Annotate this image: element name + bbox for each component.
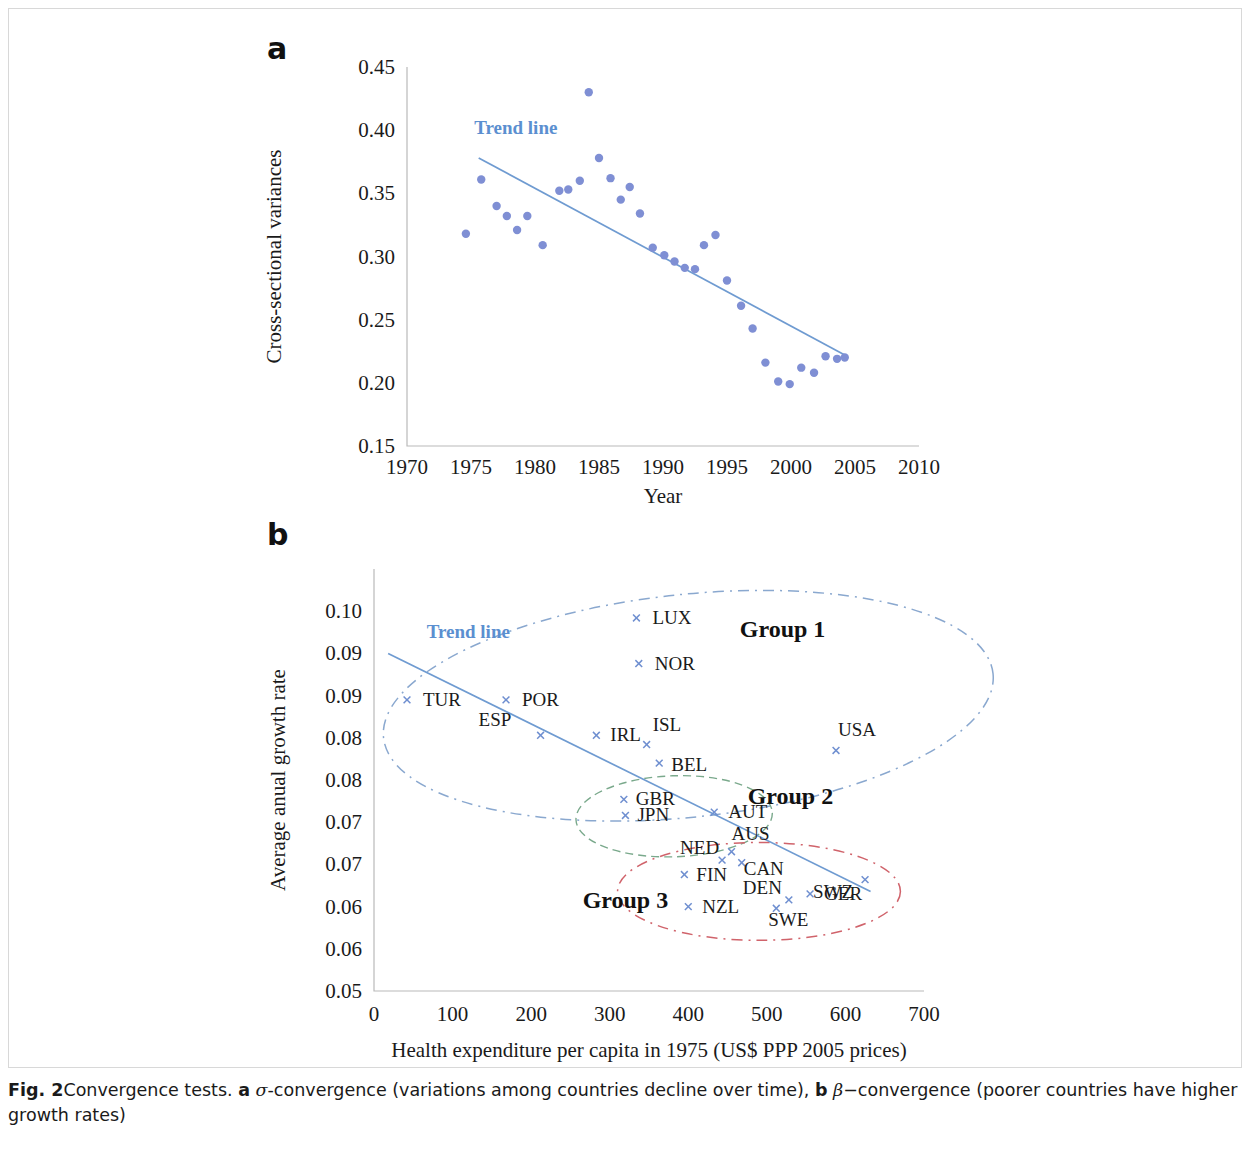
country-marker <box>620 796 627 803</box>
data-point <box>555 187 563 195</box>
panel-b-xtick-label: 200 <box>515 1002 547 1026</box>
data-point <box>503 212 511 220</box>
panel-a-trend-line-label: Trend line <box>474 117 557 138</box>
data-point <box>737 302 745 310</box>
data-point <box>538 241 546 249</box>
group-label: Group 2 <box>748 783 834 809</box>
panel-a-xtick-label: 1980 <box>514 455 556 479</box>
country-marker <box>503 696 510 703</box>
panel-a-xtick-label: 1970 <box>386 455 428 479</box>
data-point <box>477 175 485 183</box>
data-point <box>723 276 731 284</box>
country-label: NOR <box>655 653 695 674</box>
country-label: SWE <box>768 909 808 930</box>
country-label: AUS <box>732 823 770 844</box>
country-marker <box>862 876 869 883</box>
panel-b-xtick-label: 600 <box>830 1002 862 1026</box>
country-label: LUX <box>652 607 691 628</box>
country-marker <box>622 812 629 819</box>
country-label: NZL <box>702 896 739 917</box>
panel-a-chart: 0.150.200.250.300.350.400.45197019751980… <box>259 49 959 509</box>
panel-b-trend-line-label: Trend line <box>427 621 510 642</box>
data-point <box>670 257 678 265</box>
country-label: TUR <box>423 689 461 710</box>
data-point <box>810 369 818 377</box>
data-point <box>711 231 719 239</box>
group-label: Group 1 <box>740 616 826 642</box>
panel-b-ytick-label: 0.09 <box>325 641 362 665</box>
caption-beta-symbol: β <box>833 1080 843 1100</box>
country-label: NED <box>680 837 719 858</box>
country-label: BEL <box>671 754 707 775</box>
data-point <box>492 202 500 210</box>
country-label: DEN <box>743 877 782 898</box>
country-label: GER <box>824 883 862 904</box>
panel-a-ytick-label: 0.30 <box>358 245 395 269</box>
panel-b-ytick-label: 0.08 <box>325 768 362 792</box>
caption-text-1: Convergence tests. <box>63 1080 238 1100</box>
panel-a-xtick-label: 1975 <box>450 455 492 479</box>
caption-sigma-symbol: σ <box>256 1080 268 1100</box>
data-point <box>841 353 849 361</box>
data-point <box>595 154 603 162</box>
panel-b-xtick-label: 0 <box>369 1002 380 1026</box>
country-marker <box>404 696 411 703</box>
country-label: CAN <box>744 858 784 879</box>
country-marker <box>633 615 640 622</box>
data-point <box>649 243 657 251</box>
country-marker <box>635 660 642 667</box>
panel-b-xtick-label: 100 <box>437 1002 469 1026</box>
panel-b-data-points: TURPORESPIRLISLLUXNORUSABELGBRJPNAUTAUSN… <box>404 607 877 930</box>
data-point <box>821 352 829 360</box>
data-point <box>833 355 841 363</box>
data-point <box>797 363 805 371</box>
panel-a-ytick-label: 0.40 <box>358 118 395 142</box>
country-marker <box>833 747 840 754</box>
panel-b-ytick-label: 0.06 <box>325 937 362 961</box>
data-point <box>585 88 593 96</box>
panel-b-xtick-label: 700 <box>908 1002 940 1026</box>
figure-frame: a b 0.150.200.250.300.350.400.4519701975… <box>8 8 1242 1068</box>
panel-a-xtick-label: 1995 <box>706 455 748 479</box>
data-point <box>617 195 625 203</box>
data-point <box>681 264 689 272</box>
data-point <box>523 212 531 220</box>
group-ellipse <box>372 563 1005 849</box>
data-point <box>691 265 699 273</box>
data-point <box>636 209 644 217</box>
caption-panel-b: b <box>815 1080 828 1100</box>
panel-b-chart: 0.050.060.060.070.070.080.080.090.090.10… <box>259 539 1019 1069</box>
panel-b-ytick-label: 0.07 <box>325 852 362 876</box>
country-label: USA <box>838 719 876 740</box>
country-marker <box>656 760 663 767</box>
panel-a-xtick-label: 1990 <box>642 455 684 479</box>
country-label: ISL <box>653 714 682 735</box>
figure-caption: Fig. 2Convergence tests. a σ-convergence… <box>8 1078 1242 1129</box>
panel-a-xtick-label: 2010 <box>898 455 940 479</box>
country-label: FIN <box>696 864 727 885</box>
country-marker <box>537 732 544 739</box>
data-point <box>626 183 634 191</box>
data-point <box>660 251 668 259</box>
data-point <box>748 324 756 332</box>
data-point <box>774 377 782 385</box>
country-marker <box>643 741 650 748</box>
country-label: IRL <box>610 724 641 745</box>
panel-b-x-axis-title: Health expenditure per capita in 1975 (U… <box>391 1038 906 1062</box>
group-label: Group 3 <box>583 887 669 913</box>
panel-b-ytick-label: 0.06 <box>325 895 362 919</box>
panel-b-ytick-label: 0.09 <box>325 684 362 708</box>
panel-b-y-axis-title: Average anual growth rate <box>266 669 290 891</box>
data-point <box>513 226 521 234</box>
panel-b-xtick-label: 300 <box>594 1002 626 1026</box>
data-point <box>761 358 769 366</box>
data-point <box>462 230 470 238</box>
data-point <box>786 380 794 388</box>
panel-a-x-axis-title: Year <box>644 484 683 508</box>
caption-panel-a: a <box>238 1080 250 1100</box>
panel-b-ytick-label: 0.07 <box>325 810 362 834</box>
panel-b-ytick-label: 0.08 <box>325 726 362 750</box>
country-marker <box>593 732 600 739</box>
country-marker <box>681 871 688 878</box>
panel-a-ytick-label: 0.45 <box>358 55 395 79</box>
